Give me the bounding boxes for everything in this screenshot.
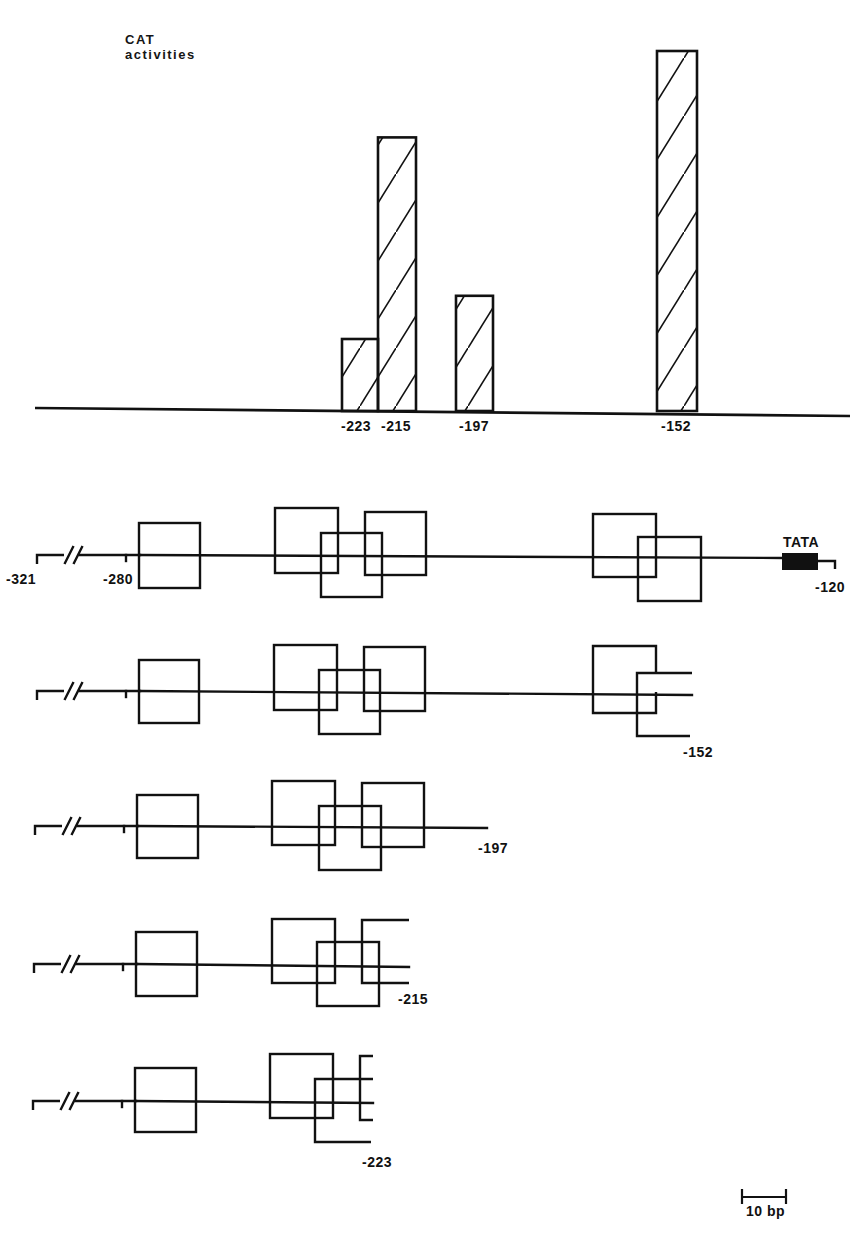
bar-rect: [657, 51, 697, 411]
break-mark: [61, 1093, 69, 1109]
bar--152: [657, 51, 697, 411]
start-bracket: [37, 555, 64, 564]
binding-site-box: [274, 645, 337, 710]
dna-line: [138, 826, 487, 828]
end-bracket: [818, 561, 835, 569]
binding-site-box: [365, 512, 426, 575]
bar-label: -197: [459, 418, 489, 434]
construct-full: TATA-321-280-120: [6, 508, 845, 601]
binding-site-box: [272, 919, 335, 983]
binding-site-box: [317, 942, 379, 1006]
binding-site-partial: [637, 673, 692, 736]
end-label: -215: [398, 991, 428, 1007]
binding-site-box: [319, 670, 380, 734]
bar-label: -215: [381, 418, 411, 434]
break-mark: [63, 818, 71, 834]
binding-site-box: [270, 1054, 333, 1118]
binding-site-partial: [315, 1079, 373, 1142]
end-label: -223: [362, 1154, 392, 1170]
x-axis-baseline: [35, 408, 850, 416]
bar-rect: [378, 137, 416, 411]
dna-line: [136, 1101, 373, 1103]
construct-del-152: -152: [37, 645, 713, 760]
binding-site-box: [321, 533, 382, 597]
start-bracket: [35, 826, 62, 835]
binding-site-partial: [360, 1056, 373, 1120]
break-mark: [65, 547, 73, 563]
start-bracket: [37, 691, 64, 700]
bar--215: [378, 137, 416, 411]
tata-label: TATA: [783, 534, 819, 550]
start-label: -321: [6, 571, 36, 587]
promoter-constructs: TATA-321-280-120-152-197-215-223: [6, 508, 845, 1170]
dna-line: [140, 555, 782, 558]
bar--223: [342, 339, 378, 411]
binding-site-box: [362, 783, 424, 847]
bar-rect: [456, 296, 493, 411]
binding-site-box: [593, 514, 656, 577]
tata-box: [782, 553, 818, 570]
scale-bar-label: 10 bp: [746, 1203, 785, 1219]
binding-site-box: [364, 647, 425, 711]
end-label: -197: [478, 840, 508, 856]
binding-site-partial: [593, 646, 656, 713]
binding-site-box: [638, 537, 701, 601]
dna-line: [140, 691, 692, 695]
figure: -223-215-197-152 TATA-321-280-120-152-19…: [0, 0, 864, 1242]
construct-del-197: -197: [35, 781, 508, 870]
construct-del-223: -223: [33, 1054, 392, 1170]
bar-rect: [342, 339, 378, 411]
position-label: -280: [103, 571, 133, 587]
end-label: -120: [815, 579, 845, 595]
end-label: -152: [683, 744, 713, 760]
break-mark: [62, 956, 70, 972]
scale-bar: 10 bp: [741, 1189, 787, 1219]
bar-label: -223: [341, 418, 371, 434]
binding-site-box: [272, 781, 335, 845]
binding-site-box: [319, 806, 381, 870]
cat-activity-bar-chart: -223-215-197-152: [35, 51, 850, 434]
start-bracket: [33, 1101, 60, 1110]
bar-label: -152: [661, 418, 691, 434]
construct-del-215: -215: [34, 919, 428, 1007]
start-bracket: [34, 964, 61, 973]
break-mark: [65, 683, 73, 699]
binding-site-partial: [362, 920, 409, 983]
binding-site-box: [275, 508, 338, 573]
bar--197: [456, 296, 493, 411]
